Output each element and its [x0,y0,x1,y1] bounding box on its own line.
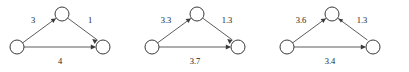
node-bottom-left[interactable] [280,40,294,54]
node-bottom-right[interactable] [366,40,380,54]
edge-label-left: 3 [31,15,35,25]
edge-bottomleft-to-bottomright [24,45,96,50]
graph-panel-1: 3 1 4 [0,0,136,72]
node-bottom-right[interactable] [96,40,110,54]
edge-line-1 [22,18,56,43]
node-bottom-right[interactable] [231,40,245,54]
edge-label-bottom: 4 [58,56,63,66]
graph-3-canvas: 3.6 1.3 3.4 [270,0,406,72]
edge-label-bottom: 3.4 [325,56,336,66]
edge-label-right: 1 [88,15,92,25]
edge-bottomleft-to-bottomright [294,45,366,50]
node-bottom-left[interactable] [10,40,24,54]
edge-bottomleft-to-bottomright [159,45,231,50]
node-top[interactable] [55,7,69,21]
node-top[interactable] [190,7,204,21]
graph-2-canvas: 3.3 1.3 3.7 [135,0,271,72]
node-top[interactable] [325,7,339,21]
edge-top-to-bottomright [68,18,97,44]
edge-label-right: 1.3 [357,15,368,25]
arrowhead-right [91,45,96,50]
graph-panel-3: 3.6 1.3 3.4 [270,0,406,72]
edge-bottomleft-to-top [22,18,56,43]
arrowhead-right [361,45,366,50]
figure-root: 3 1 4 3.3 1.3 3.7 [0,0,409,72]
edge-line-2 [68,18,97,40]
arrowhead-right [226,45,231,50]
edge-label-left: 3.6 [296,15,307,25]
edge-label-right: 1.3 [222,15,233,25]
graph-panel-2: 3.3 1.3 3.7 [135,0,271,72]
graph-1-canvas: 3 1 4 [0,0,136,72]
edge-label-left: 3.3 [161,15,172,25]
edge-label-bottom: 3.7 [190,56,201,66]
node-bottom-left[interactable] [145,40,159,54]
